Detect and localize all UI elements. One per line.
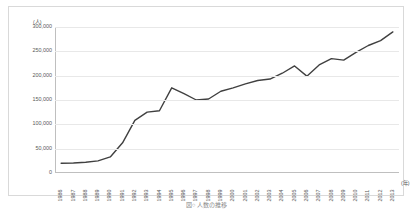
y-axis-tick-label: 50,000 (36, 146, 53, 151)
gridline (55, 100, 399, 101)
y-axis-tick-label: 250,000 (33, 49, 53, 54)
gridline (55, 124, 399, 125)
x-axis-unit-label: (年) (401, 179, 410, 187)
y-axis-tick-label: 100,000 (33, 122, 53, 127)
y-axis-tick-labels: 050,000100,000150,000200,000250,000300,0… (15, 27, 52, 173)
gridline (55, 27, 399, 28)
chart-frame: (人) 050,000100,000150,000200,000250,0003… (8, 6, 404, 196)
y-axis-tick-label: 300,000 (33, 24, 53, 29)
plot-area (55, 27, 399, 173)
gridline (55, 51, 399, 52)
y-axis-tick-label: 150,000 (33, 97, 53, 102)
y-axis-tick-label: 200,000 (33, 73, 53, 78)
y-axis-tick-label: 0 (49, 170, 52, 175)
figure-caption: 図○ 人数の推移 (0, 200, 413, 212)
gridline (55, 149, 399, 150)
x-axis-tick-labels: 1986198719881989199019911992199319941995… (55, 175, 399, 201)
gridline (55, 76, 399, 77)
chart-screenshot: (人) 050,000100,000150,000200,000250,0003… (0, 0, 413, 214)
